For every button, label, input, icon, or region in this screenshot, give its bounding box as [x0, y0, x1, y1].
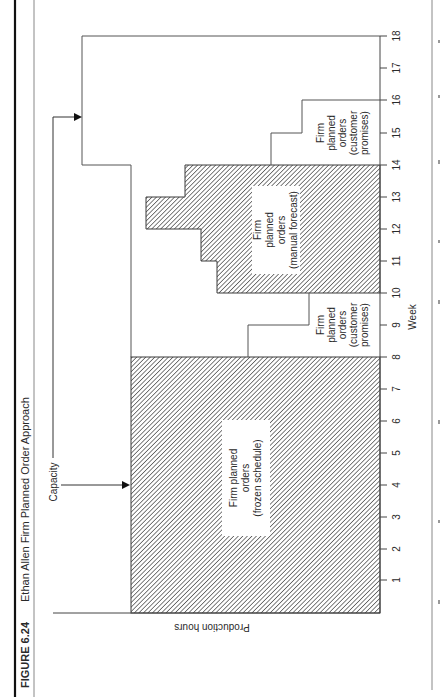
svg-text:Firm: Firm — [252, 220, 263, 240]
x-axis-label: Week — [407, 303, 418, 329]
svg-text:planned: planned — [326, 307, 337, 343]
svg-text:11: 11 — [391, 255, 402, 266]
svg-text:promises): promises) — [359, 111, 370, 155]
svg-text:12: 12 — [391, 223, 402, 235]
svg-text:6: 6 — [391, 418, 402, 424]
label-customer-promises-a: Firm planned orders (customer promises) — [315, 302, 370, 347]
svg-text:13: 13 — [391, 191, 402, 203]
svg-text:promises): promises) — [359, 303, 370, 347]
svg-text:orders: orders — [240, 464, 251, 492]
svg-text:planned: planned — [326, 115, 337, 151]
svg-text:Firm: Firm — [315, 123, 326, 143]
svg-text:1: 1 — [391, 577, 402, 583]
svg-text:orders: orders — [276, 216, 287, 244]
svg-text:18: 18 — [391, 30, 402, 42]
svg-text:8: 8 — [391, 354, 402, 360]
svg-text:15: 15 — [391, 127, 402, 139]
svg-text:4: 4 — [391, 482, 402, 488]
region-customer-promises-a — [248, 293, 309, 357]
source-note-fragments — [438, 40, 440, 604]
svg-text:7: 7 — [391, 386, 402, 392]
figure-canvas: FIGURE 6.24 Ethan Allen Firm Planned Ord… — [0, 0, 443, 697]
svg-text:Firm: Firm — [315, 315, 326, 335]
svg-text:10: 10 — [391, 287, 402, 299]
capacity-arrow-upper — [74, 113, 82, 121]
svg-text:Firm planned: Firm planned — [228, 449, 239, 507]
svg-text:3: 3 — [391, 514, 402, 520]
svg-text:planned: planned — [264, 212, 275, 248]
capacity-leader-lines — [53, 117, 122, 485]
week-ticks — [380, 36, 387, 580]
svg-text:17: 17 — [391, 62, 402, 74]
y-axis-label: Production hours — [174, 622, 250, 633]
svg-text:(manual forecast): (manual forecast) — [288, 191, 299, 269]
capacity-arrow-lower — [122, 481, 130, 489]
svg-text:(customer: (customer — [348, 302, 359, 347]
svg-text:5: 5 — [391, 450, 402, 456]
capacity-label: Capacity — [48, 463, 59, 502]
svg-text:orders: orders — [337, 311, 348, 339]
figure-title: Ethan Allen Firm Planned Order Approach — [19, 397, 31, 602]
figure-number: FIGURE 6.24 — [19, 621, 31, 688]
svg-text:9: 9 — [391, 322, 402, 328]
svg-text:2: 2 — [391, 546, 402, 552]
label-customer-promises-b: Firm planned orders (customer promises) — [315, 110, 370, 155]
svg-text:orders: orders — [337, 119, 348, 147]
svg-text:14: 14 — [391, 159, 402, 171]
svg-text:16: 16 — [391, 94, 402, 106]
svg-text:(customer: (customer — [348, 110, 359, 155]
week-tick-labels: 1 2 3 4 5 6 7 8 9 10 11 12 13 14 15 16 1… — [391, 30, 402, 583]
figure-heading: FIGURE 6.24 Ethan Allen Firm Planned Ord… — [19, 397, 31, 688]
svg-text:(frozen schedule): (frozen schedule) — [252, 439, 263, 516]
